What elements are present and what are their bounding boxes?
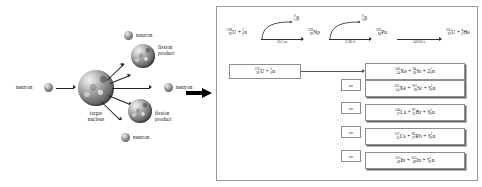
outcome-box-3: 14657La + 8735Br + 310n (365, 104, 465, 121)
outcome-1-c-symbol: n (432, 68, 435, 75)
outcome-3-op1: + (408, 109, 411, 115)
chain-beta-term-2: 0-1β (361, 15, 367, 22)
input-symbol: U (260, 68, 264, 75)
outcome-1-op2: + (423, 68, 426, 74)
outcome-5-op1: + (407, 157, 410, 163)
target-nucleus-label-line2: nucleus (76, 116, 116, 122)
input-neutron-symbol: n (272, 68, 275, 75)
outcome-2-op1: + (407, 85, 410, 91)
incoming-neutron-label: neutron (16, 84, 33, 90)
outcome-4-c-symbol: n (432, 133, 435, 140)
product-arrow-head-5 (118, 117, 123, 122)
chain-start-symbol: U (232, 29, 236, 36)
outcome-1-op1: + (408, 68, 411, 74)
chain-beta-dot-1 (290, 21, 292, 23)
outcome-5-c-symbol: n (432, 157, 435, 164)
outcome-5-op2: + (423, 157, 426, 163)
outcome-3-b-symbol: Br (416, 109, 421, 116)
u235-plus-neutron-input: 23592U + 10n (229, 64, 301, 79)
flow-arrow-shaft (186, 91, 203, 95)
outcome-3-a-symbol: La (400, 109, 406, 116)
outcome-2-c-symbol: n (433, 85, 436, 92)
emitted-neutron-icon-bottom (121, 133, 130, 142)
fission-product-label-upper-line2: product (158, 50, 175, 56)
or-label-3: or (341, 126, 361, 138)
product-arrow-head-2 (127, 73, 131, 78)
chain-product-plus-3: + (457, 29, 460, 35)
outcome-2-a-atomic: 54 (394, 89, 399, 92)
outcome-box-4: 13755Cs + 9637Rb + 310n (365, 128, 465, 145)
reaction-pathways-panel: 23892U + 10n 23.5 m 0-1β 23993Np (216, 6, 478, 181)
outcome-5-a-symbol: In (401, 157, 406, 164)
chain-start-plus: + (238, 29, 241, 35)
product-arrow-head-3 (149, 85, 152, 89)
product-arrow-3 (112, 88, 150, 89)
outcome-2-b-atomic: 38 (412, 89, 417, 92)
flow-arrow-head (202, 88, 212, 98)
incoming-neutron-icon (44, 83, 53, 92)
input-to-outcome-connector (301, 71, 364, 72)
chain-product-1: 23993Np (308, 29, 320, 36)
emitted-neutron-label-top: neutron (136, 32, 153, 38)
outcome-box-1: 14054Xe + 9438Sr + 210n (365, 63, 465, 80)
incoming-arrow-line (56, 88, 74, 89)
chain-product-3: 23592U + 42He (446, 29, 470, 36)
outcome-3-a-atomic: 57 (395, 113, 400, 116)
outcome-box-5: 11549In + 11549In + 510n (365, 152, 465, 169)
outcome-3-c-symbol: n (432, 109, 435, 116)
target-nucleus-icon (78, 70, 114, 106)
outcome-2-op2: + (424, 85, 427, 91)
outcome-1-b-symbol: Sr (416, 68, 421, 75)
chain-half-life-3: 24100 y (395, 40, 443, 44)
input-atomic: 92 (255, 72, 260, 75)
chain-beta-symbol-1: β (296, 15, 299, 22)
flow-arrow (186, 88, 212, 98)
chain-product-symbol-3: U (451, 29, 455, 36)
outcome-1-a-symbol: Xe (400, 68, 406, 75)
chain-product-2: 23994Pu (376, 29, 387, 36)
outcome-5-a-atomic: 49 (395, 161, 400, 164)
or-label-1: or (341, 79, 361, 91)
chain-beta-dot-2 (358, 21, 360, 23)
or-label-4: or (341, 150, 361, 162)
outcome-2-a-symbol: Xe (400, 85, 406, 92)
outcome-5-b-symbol: In (416, 157, 421, 164)
fission-product-icon-upper (131, 44, 155, 68)
outcome-5-b-atomic: 49 (411, 161, 416, 164)
or-label-2: or (341, 102, 361, 114)
emitted-neutron-icon-top (124, 31, 133, 40)
chain-start-projectile-symbol: n (244, 29, 247, 36)
fission-product-label-lower-line2: product (155, 116, 172, 122)
chain-product-atomic-2: 94 (376, 33, 381, 36)
outcome-1-a-atomic: 54 (395, 72, 400, 75)
chain-start-term: 23892U + 10n (227, 29, 247, 36)
product-arrow-4 (108, 95, 131, 105)
outcome-4-a-symbol: Cs (400, 133, 406, 140)
emitted-neutron-icon-middle (164, 83, 173, 92)
emitted-neutron-label-bottom: neutron (133, 134, 150, 140)
input-plus: + (266, 68, 269, 74)
chain-product-atomic-3: 92 (446, 33, 451, 36)
chain-product-symbol-2: Pu (381, 29, 387, 36)
fission-diagram: neutron target nucleus neutron fission p… (0, 0, 482, 187)
incoming-arrow-head (73, 85, 76, 89)
outcome-4-a-atomic: 55 (395, 137, 400, 140)
chain-product-symbol-1: Np (313, 29, 320, 36)
outcome-2-b-symbol: Sr (417, 85, 422, 92)
fission-product-icon-lower (128, 99, 152, 123)
outcome-4-op1: + (407, 133, 410, 139)
outcome-3-op2: + (423, 109, 426, 115)
fission-event-illustration: neutron target nucleus neutron fission p… (0, 0, 215, 187)
chain-product-atomic-1: 93 (308, 33, 313, 36)
chain-start-atomic: 92 (227, 33, 232, 36)
chain-emitted-symbol-3: He (463, 29, 469, 36)
outcome-box-2: 13254Xe + 10138Sr + 310n (365, 80, 465, 97)
chain-beta-symbol-2: β (364, 15, 367, 22)
outcome-4-op2: + (423, 133, 426, 139)
chain-beta-term-1: 0-1β (293, 15, 299, 22)
outcome-4-b-symbol: Rb (415, 133, 421, 140)
